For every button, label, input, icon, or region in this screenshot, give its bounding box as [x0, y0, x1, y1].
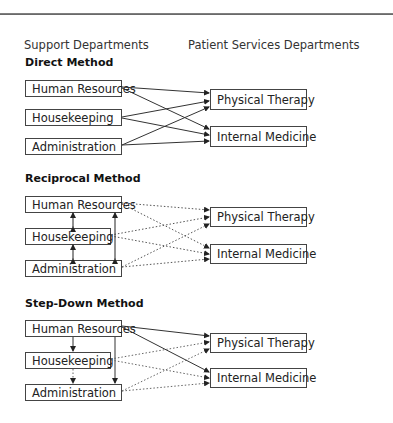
allocation-arrows — [0, 0, 393, 423]
